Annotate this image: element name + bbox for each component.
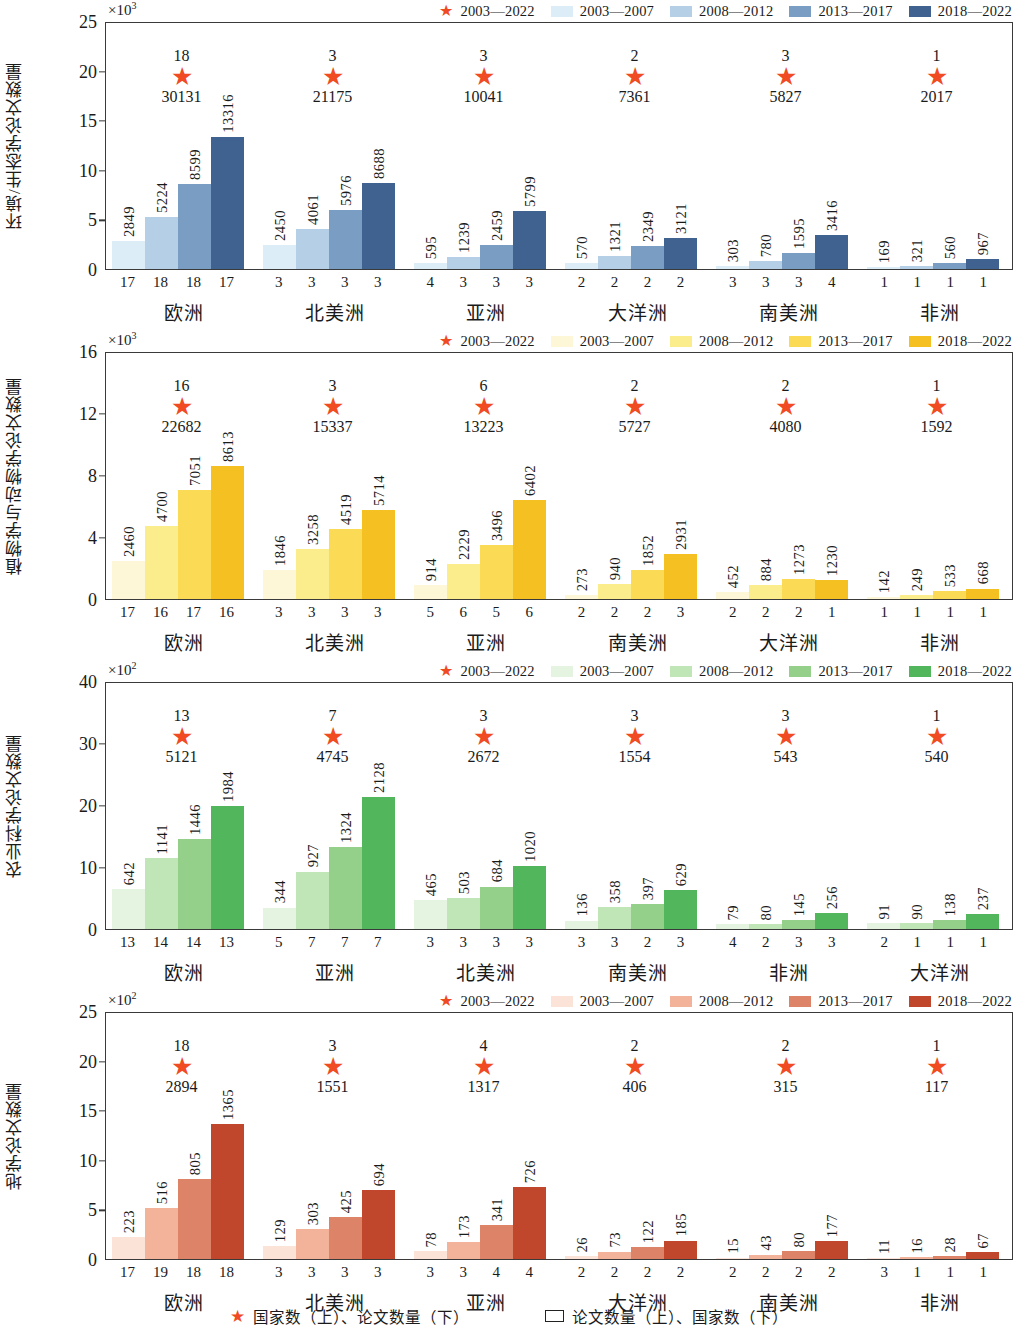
- legend-label: 2003—2022: [460, 663, 534, 680]
- legend-item: 2008—2012: [670, 993, 773, 1010]
- bars: 169321560967: [861, 23, 1012, 269]
- bar-value-label: 16: [908, 1238, 925, 1254]
- chart-panel-4: ★2003—20222003—20072008—20122013—2017201…: [0, 990, 1018, 1303]
- chart-legend: ★2003—20222003—20072008—20122013—2017201…: [0, 0, 1018, 22]
- bar-item: 145: [782, 683, 815, 929]
- x-axis-country-count: 3: [262, 1264, 295, 1281]
- bar: [178, 184, 211, 269]
- x-axis-country-count: 1: [934, 604, 967, 621]
- bar: [178, 1179, 211, 1259]
- bar-value-label: 694: [370, 1163, 387, 1186]
- x-axis-category-label: 北美洲: [269, 298, 401, 325]
- y-axis-title: 植物学与动物学论文数量: [2, 352, 28, 600]
- x-axis-group: 3333: [256, 1264, 407, 1281]
- legend-swatch: [789, 996, 811, 1007]
- bar-value-label: 1446: [186, 804, 203, 835]
- legend-swatch: [789, 666, 811, 677]
- bar-item: 780: [749, 23, 782, 269]
- bar: [145, 1208, 178, 1259]
- bar-item: 358: [598, 683, 631, 929]
- x-axis-category-label: 欧洲: [118, 628, 250, 655]
- bar-value-label: 6402: [521, 465, 538, 496]
- x-axis-group: 17161716: [105, 604, 256, 621]
- bar-item: 11: [867, 1013, 900, 1259]
- bars: 11162867: [861, 1013, 1012, 1259]
- x-axis-country-count: 2: [664, 274, 697, 291]
- bar-item: 533: [933, 353, 966, 599]
- bar: [867, 923, 900, 929]
- bar-item: 2459: [480, 23, 513, 269]
- x-axis-country-count: 1: [815, 604, 848, 621]
- bar-item: 629: [664, 683, 697, 929]
- bar-value-label: 5224: [153, 182, 170, 213]
- bar: [329, 1217, 362, 1259]
- chart-panel-1: ★2003—20222003—20072008—20122013—2017201…: [0, 0, 1018, 330]
- legend-label: 2018—2022: [938, 993, 1012, 1010]
- bar-item: 1020: [513, 683, 546, 929]
- bar-group: 452884127312302★4080: [710, 353, 861, 599]
- bar: [631, 1247, 664, 1259]
- x-axis-category: 亚洲: [256, 958, 407, 985]
- y-tick-label: 40: [79, 672, 97, 693]
- y-tick-label: 0: [88, 590, 97, 611]
- bar-groups: 223516805136518★28941293034256943★155178…: [106, 1013, 1012, 1259]
- bar-value-label: 465: [422, 873, 439, 896]
- x-axis-category: 北美洲: [256, 298, 407, 325]
- bar-value-label: 138: [941, 893, 958, 916]
- bar-value-label: 2459: [488, 210, 505, 241]
- x-axis-category: 欧洲: [105, 958, 256, 985]
- bar: [513, 866, 546, 929]
- bars: 142249533668: [861, 353, 1012, 599]
- bar: [933, 920, 966, 929]
- x-axis-country-count: 18: [144, 274, 177, 291]
- bar-item: 78: [414, 1013, 447, 1259]
- bar-item: 2229: [447, 353, 480, 599]
- bar-item: 91: [867, 683, 900, 929]
- bar-item: 4519: [329, 353, 362, 599]
- bar: [933, 1256, 966, 1259]
- legend-swatch: [789, 336, 811, 347]
- bar-value-label: 1273: [790, 544, 807, 575]
- bar: [966, 259, 999, 269]
- x-axis-category-label: 非洲: [874, 628, 1006, 655]
- x-axis-country-count: 1: [901, 274, 934, 291]
- x-axis-country-count: 1: [868, 274, 901, 291]
- x-axis-country-count: 4: [716, 934, 749, 951]
- x-axis-country-counts: 1314141357773333332342332111: [105, 934, 1013, 951]
- bar: [362, 510, 395, 599]
- x-axis-group: 3333: [408, 934, 559, 951]
- bar-item: 5224: [145, 23, 178, 269]
- y-axis-exponent: ×103: [108, 0, 136, 19]
- bar: [598, 256, 631, 269]
- bar: [211, 1124, 244, 1259]
- bars: 595123924595799: [408, 23, 559, 269]
- bottom-legend-item: 论文数量（上）、国家数（下）: [545, 1305, 788, 1327]
- bar-value-label: 1595: [790, 218, 807, 249]
- bar-value-label: 11: [875, 1239, 892, 1254]
- x-axis-category: 欧洲: [105, 298, 256, 325]
- legend-label: 2013—2017: [818, 333, 892, 350]
- x-axis-country-count: 3: [480, 934, 513, 951]
- bar: [867, 1258, 900, 1259]
- x-axis-country-count: 3: [295, 274, 328, 291]
- x-axis-country-count: 2: [598, 274, 631, 291]
- chart-legend: ★2003—20222003—20072008—20122013—2017201…: [0, 660, 1018, 682]
- bars: 28495224859913316: [106, 23, 257, 269]
- bars: 78173341726: [408, 1013, 559, 1259]
- y-axis-exponent-base: ×10: [108, 2, 131, 18]
- bar: [664, 1241, 697, 1259]
- bar-item: 2931: [664, 353, 697, 599]
- x-axis-country-count: 3: [815, 934, 848, 951]
- x-axis-country-count: 3: [664, 934, 697, 951]
- x-axis-group: 1111: [862, 604, 1013, 621]
- y-axis-exponent-base: ×10: [108, 332, 131, 348]
- bar: [362, 797, 395, 929]
- bar: [414, 1251, 447, 1259]
- bar: [966, 914, 999, 929]
- bar-value-label: 684: [488, 859, 505, 882]
- star-icon: ★: [439, 3, 453, 19]
- bar-value-label: 73: [606, 1232, 623, 1248]
- y-axis-exponent-power: 2: [131, 990, 136, 1001]
- x-axis-country-count: 14: [144, 934, 177, 951]
- x-axis-country-count: 17: [177, 604, 210, 621]
